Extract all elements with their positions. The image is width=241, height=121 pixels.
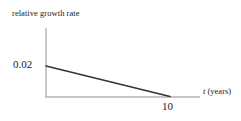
x-axis-units: (years): [208, 86, 232, 96]
growth-rate-data-line: [46, 66, 170, 97]
plot-area: [0, 0, 241, 121]
growth-rate-figure: relative growth rate 0.02 10 t (years): [0, 0, 241, 121]
y-axis-title: relative growth rate: [12, 9, 80, 18]
y-tick-label-0-02: 0.02: [13, 59, 32, 70]
x-tick-label-10: 10: [162, 101, 173, 112]
x-axis-label: t (years): [203, 87, 231, 96]
